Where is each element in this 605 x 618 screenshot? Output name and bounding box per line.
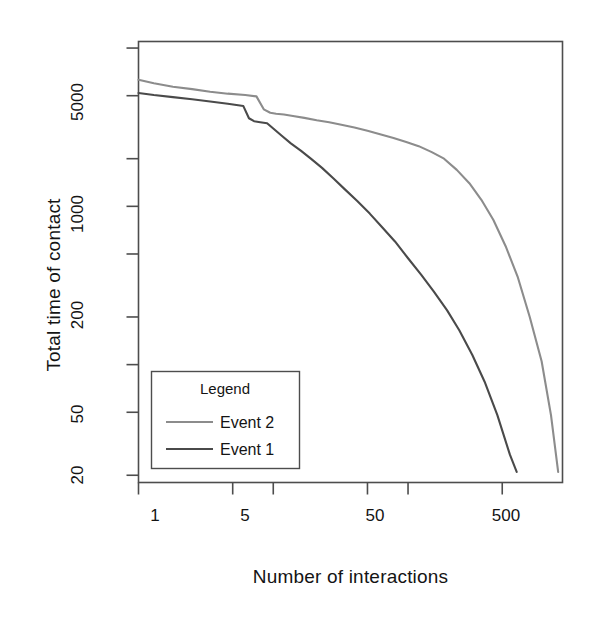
figure-panel: Degree Total time of contact Number of i… [0, 0, 605, 618]
x-axis-ticks [139, 483, 503, 495]
legend-label-event-2: Event 2 [220, 414, 274, 431]
y-axis-ticks [127, 48, 139, 475]
plot-canvas: Legend Event 2 Event 1 [0, 0, 605, 618]
legend-title: Legend [200, 380, 250, 397]
legend-label-event-1: Event 1 [220, 441, 274, 458]
legend[interactable]: Legend Event 2 Event 1 [152, 372, 300, 469]
